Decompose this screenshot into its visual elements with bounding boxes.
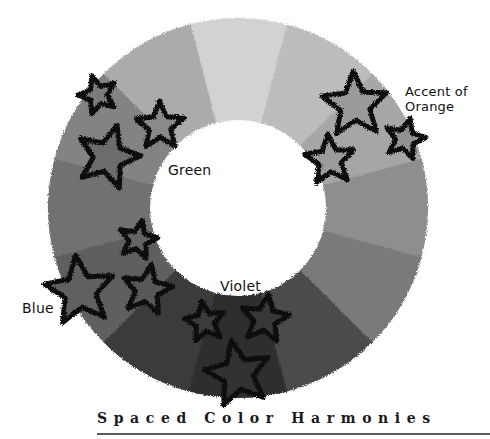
- label-accent-line2: Orange: [405, 99, 468, 114]
- label-green: Green: [168, 162, 211, 178]
- label-violet: Violet: [220, 278, 261, 294]
- caption-rule: [97, 433, 490, 435]
- diagram-title: Spaced Color Harmonies: [97, 410, 437, 426]
- color-wheel: [0, 0, 490, 439]
- label-accent-line1: Accent of: [405, 84, 468, 99]
- label-accent-of-orange: Accent of Orange: [405, 84, 468, 114]
- label-blue: Blue: [22, 300, 54, 316]
- wheel-segments: [48, 18, 428, 398]
